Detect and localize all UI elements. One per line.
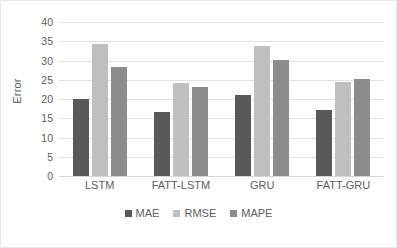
legend-item: MAE bbox=[125, 207, 160, 219]
chart-legend: MAERMSEMAPE bbox=[1, 207, 396, 219]
y-axis-title: Error bbox=[7, 1, 27, 181]
plot-area bbox=[59, 22, 384, 176]
bar bbox=[354, 79, 370, 176]
y-axis-tick: 25 bbox=[41, 74, 53, 86]
y-axis-tick-labels: 4035302520151050 bbox=[27, 22, 53, 176]
bar-groups bbox=[59, 22, 384, 176]
y-axis-tick: 0 bbox=[47, 170, 53, 182]
bar bbox=[92, 44, 108, 176]
y-axis-title-label: Error bbox=[11, 78, 23, 103]
legend-label: RMSE bbox=[184, 207, 216, 219]
legend-swatch-icon bbox=[173, 210, 180, 217]
bar-group bbox=[222, 22, 303, 176]
y-axis-tick: 35 bbox=[41, 35, 53, 47]
x-axis-tick: GRU bbox=[222, 179, 303, 191]
bar bbox=[273, 60, 289, 176]
y-axis-tick: 20 bbox=[41, 93, 53, 105]
bar bbox=[173, 83, 189, 176]
x-axis-tick: FATT-LSTM bbox=[140, 179, 221, 191]
bar bbox=[154, 112, 170, 176]
bar-group bbox=[59, 22, 140, 176]
bar bbox=[254, 46, 270, 177]
legend-swatch-icon bbox=[230, 210, 237, 217]
bar bbox=[316, 110, 332, 176]
y-axis-tick: 30 bbox=[41, 55, 53, 67]
legend-label: MAE bbox=[136, 207, 160, 219]
y-axis-tick: 40 bbox=[41, 16, 53, 28]
legend-item: RMSE bbox=[173, 207, 216, 219]
bar bbox=[235, 95, 251, 176]
y-axis-tick: 10 bbox=[41, 132, 53, 144]
y-axis-tick: 5 bbox=[47, 151, 53, 163]
bar-group bbox=[303, 22, 384, 176]
bar bbox=[335, 82, 351, 176]
bar bbox=[111, 67, 127, 176]
x-axis-tick-labels: LSTMFATT-LSTMGRUFATT-GRU bbox=[59, 179, 384, 191]
bar-chart: Error 4035302520151050 LSTMFATT-LSTMGRUF… bbox=[0, 0, 397, 248]
bar bbox=[192, 87, 208, 176]
bar-group bbox=[140, 22, 221, 176]
axis-baseline bbox=[59, 176, 384, 177]
x-axis-tick: FATT-GRU bbox=[303, 179, 384, 191]
bar bbox=[73, 99, 89, 176]
x-axis-tick: LSTM bbox=[59, 179, 140, 191]
legend-item: MAPE bbox=[230, 207, 272, 219]
legend-label: MAPE bbox=[241, 207, 272, 219]
y-axis-tick: 15 bbox=[41, 112, 53, 124]
legend-swatch-icon bbox=[125, 210, 132, 217]
